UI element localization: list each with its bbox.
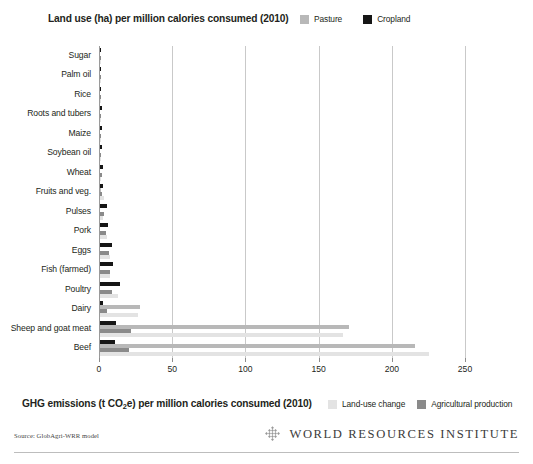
wri-logo-text: WORLD RESOURCES INSTITUTE xyxy=(289,427,519,442)
legend-swatch-cropland-icon xyxy=(363,15,372,24)
legend-label-pasture: Pasture xyxy=(314,14,342,24)
ticklabel-50: 50 xyxy=(167,364,177,374)
y-axis-label-eggs: Eggs xyxy=(72,246,91,255)
legend-swatch-agricultural-production-icon xyxy=(417,400,426,409)
chart-top-header: Land use (ha) per million calories consu… xyxy=(0,12,533,32)
tickmark-100 xyxy=(245,358,246,362)
y-axis-label-sugar: Sugar xyxy=(69,51,91,60)
ticklabel-200: 200 xyxy=(385,364,399,374)
chart-title-ghg: GHG emissions (t CO2e) per million calor… xyxy=(22,398,312,409)
bar-cropland-rice xyxy=(100,87,101,91)
legend-item-cropland[interactable]: Cropland xyxy=(363,14,410,24)
y-axis-label-soybean-oil: Soybean oil xyxy=(47,148,91,157)
wri-diamond-icon xyxy=(264,426,281,443)
bar-land-use-change-fruits-and-veg xyxy=(100,196,104,200)
bar-pasture-sheep-and-goat-meat xyxy=(100,325,349,329)
bar-land-use-change-roots-and-tubers xyxy=(100,118,101,122)
y-axis-label-maize: Maize xyxy=(69,129,91,138)
legend-label-land-use-change: Land-use change xyxy=(342,399,405,409)
y-axis-label-wheat: Wheat xyxy=(67,168,91,177)
chart-bottom-header: GHG emissions (t CO2e) per million calor… xyxy=(0,398,533,418)
y-axis-label-rice: Rice xyxy=(74,90,91,99)
bar-pasture-beef xyxy=(100,344,415,348)
source-note: Source: GlobAgri-WRR model xyxy=(14,432,99,439)
y-axis-label-fish-farmed: Fish (farmed) xyxy=(41,265,91,274)
bar-cropland-pulses xyxy=(100,204,107,208)
chart-bars xyxy=(100,46,500,358)
bar-land-use-change-poultry xyxy=(100,294,118,298)
legend-label-agricultural-production: Agricultural production xyxy=(431,399,512,409)
bar-cropland-fish-farmed xyxy=(100,262,113,266)
y-axis-category-labels: SugarPalm oilRiceRoots and tubersMaizeSo… xyxy=(0,46,95,358)
bar-land-use-change-wheat xyxy=(100,177,101,181)
x-axis-ticks: 050100150200250 xyxy=(0,358,533,382)
y-axis-label-pork: Pork xyxy=(74,226,91,235)
bar-cropland-eggs xyxy=(100,243,112,247)
y-axis-label-dairy: Dairy xyxy=(71,304,91,313)
bar-cropland-poultry xyxy=(100,282,120,286)
tickmark-0 xyxy=(99,358,100,362)
ticklabel-150: 150 xyxy=(311,364,325,374)
legend-item-agricultural-production[interactable]: Agricultural production xyxy=(417,399,512,409)
tickmark-50 xyxy=(172,358,173,362)
y-axis-label-beef: Beef xyxy=(74,343,91,352)
chart-title-landuse: Land use (ha) per million calories consu… xyxy=(48,13,288,24)
legend-item-pasture[interactable]: Pasture xyxy=(300,14,342,24)
chart-title-ghg-subscript: 2 xyxy=(123,402,127,411)
bar-cropland-pork xyxy=(100,223,108,227)
chart-title-ghg-pre: GHG emissions (t CO xyxy=(22,398,123,409)
bar-cropland-maize xyxy=(100,126,102,130)
bar-land-use-change-beef xyxy=(100,352,429,356)
legend-ghg: Land-use change Agricultural production xyxy=(328,399,512,409)
tickmark-200 xyxy=(392,358,393,362)
chart-title-ghg-post: e) per million calories consumed (2010) xyxy=(127,398,312,409)
legend-landuse: Pasture Cropland xyxy=(300,14,410,24)
ticklabel-0: 0 xyxy=(97,364,102,374)
bar-land-use-change-fish-farmed xyxy=(100,274,110,278)
y-axis-label-sheep-and-goat-meat: Sheep and goat meat xyxy=(11,324,91,333)
y-axis-label-palm-oil: Palm oil xyxy=(61,70,91,79)
chart-plot-area: SugarPalm oilRiceRoots and tubersMaizeSo… xyxy=(0,46,533,366)
y-axis-label-poultry: Poultry xyxy=(65,285,91,294)
bar-cropland-wheat xyxy=(100,165,103,169)
bar-land-use-change-sugar xyxy=(100,60,101,64)
legend-item-land-use-change[interactable]: Land-use change xyxy=(328,399,405,409)
ticklabel-250: 250 xyxy=(458,364,472,374)
bar-cropland-soybean-oil xyxy=(100,145,102,149)
tickmark-250 xyxy=(465,358,466,362)
y-axis-label-pulses: Pulses xyxy=(66,207,91,216)
bar-land-use-change-rice xyxy=(100,99,101,103)
bar-land-use-change-palm-oil xyxy=(100,79,101,83)
bar-land-use-change-sheep-and-goat-meat xyxy=(100,333,343,337)
bar-cropland-palm-oil xyxy=(100,67,101,71)
wri-logo: WORLD RESOURCES INSTITUTE xyxy=(264,426,519,443)
legend-swatch-land-use-change-icon xyxy=(328,400,337,409)
bar-cropland-roots-and-tubers xyxy=(100,106,102,110)
bar-cropland-sugar xyxy=(100,48,101,52)
bar-land-use-change-soybean-oil xyxy=(100,157,101,161)
legend-swatch-pasture-icon xyxy=(300,15,309,24)
y-axis-label-roots-and-tubers: Roots and tubers xyxy=(27,109,91,118)
tickmark-150 xyxy=(319,358,320,362)
bar-land-use-change-maize xyxy=(100,138,101,142)
legend-label-cropland: Cropland xyxy=(377,14,410,24)
bar-land-use-change-dairy xyxy=(100,313,138,317)
bar-land-use-change-eggs xyxy=(100,255,110,259)
y-axis-label-fruits-and-veg: Fruits and veg. xyxy=(36,187,91,196)
ticklabel-100: 100 xyxy=(238,364,252,374)
bar-land-use-change-pulses xyxy=(100,216,103,220)
footer-divider xyxy=(14,452,519,453)
bar-land-use-change-pork xyxy=(100,235,107,239)
